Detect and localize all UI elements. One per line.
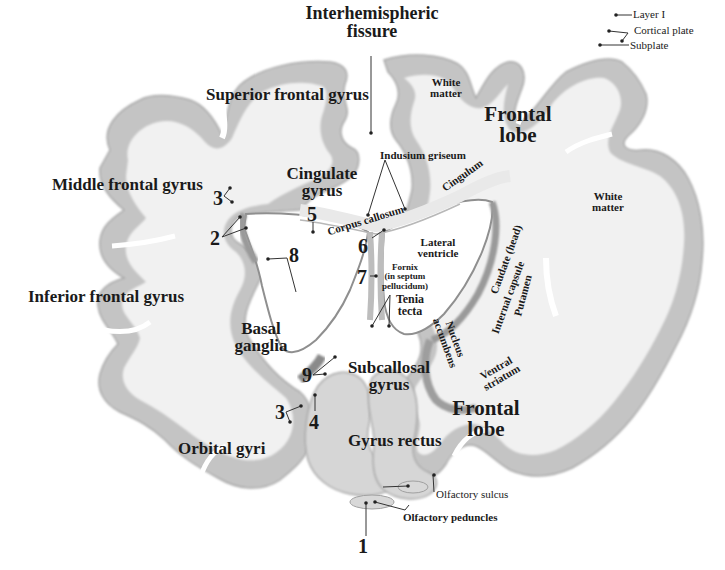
number-1: 1 [358, 536, 368, 556]
label-orbital-gyri: Orbital gyri [178, 440, 265, 457]
number-5: 5 [307, 204, 317, 224]
label-middle-frontal-gyrus: Middle frontal gyrus [52, 176, 203, 193]
olfactory-peduncle-left [350, 495, 394, 509]
label-olfactory-peduncles: Olfactory peduncles [403, 512, 497, 523]
label-frontal-lobe-bottom: Frontal lobe [448, 398, 524, 440]
number-7: 7 [357, 267, 367, 287]
label-frontal-lobe-top: Frontal lobe [480, 104, 556, 146]
number-4: 4 [309, 412, 319, 432]
label-fornix: Fornix (in septum pellucidum) [376, 263, 434, 291]
label-subcallosal-gyrus: Subcallosal gyrus [334, 359, 444, 393]
number-2: 2 [210, 228, 220, 248]
number-3-upper: 3 [213, 188, 223, 208]
label-gyrus-rectus: Gyrus rectus [348, 432, 442, 449]
left-sulcus-1 [222, 100, 224, 138]
label-interhemispheric-fissure: Interhemispheric fissure [302, 4, 442, 40]
label-indusium-griseum: Indusium griseum [380, 150, 466, 161]
number-9: 9 [302, 365, 312, 385]
label-cingulate-gyrus: Cingulate gyrus [282, 165, 362, 199]
label-inferior-frontal-gyrus: Inferior frontal gyrus [28, 288, 184, 305]
label-olfactory-sulcus: Olfactory sulcus [436, 489, 508, 500]
olfactory-peduncle-right [398, 481, 428, 493]
label-white-matter-top: White matter [426, 77, 466, 99]
label-white-matter-right: White matter [588, 191, 628, 213]
label-tenia-tecta: Tenia tecta [392, 293, 428, 317]
label-cortical-plate: Cortical plate [634, 25, 694, 36]
label-subplate: Subplate [630, 40, 669, 51]
label-layer-i: Layer I [633, 9, 665, 20]
number-3-lower: 3 [275, 402, 285, 422]
label-basal-ganglia: Basal ganglia [226, 320, 296, 354]
label-lateral-ventricle: Lateral ventricle [410, 237, 466, 259]
number-8: 8 [289, 245, 299, 265]
brain-section-figure: Interhemispheric fissure Superior fronta… [0, 0, 725, 570]
label-superior-frontal-gyrus: Superior frontal gyrus [206, 86, 369, 103]
number-6: 6 [358, 236, 368, 256]
